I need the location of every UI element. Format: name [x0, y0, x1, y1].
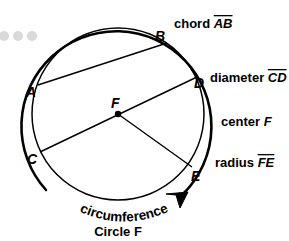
radius-segment-text: FE	[258, 155, 275, 170]
center-label-text: center	[221, 114, 264, 129]
annotation-diameter: diameter CD	[210, 70, 287, 85]
diameter-label-text: diameter	[210, 70, 268, 85]
circumference-label-text: circumference	[78, 200, 170, 224]
svg-text:center F: center F	[221, 114, 273, 129]
decorative-dot-icon	[0, 31, 9, 41]
circle-f-figure: A B C D E F chord AB diameter CD center …	[0, 0, 289, 241]
svg-text:radius FE: radius FE	[215, 155, 275, 170]
annotation-center: center F	[221, 114, 273, 129]
radius-label-text: radius	[215, 155, 258, 170]
circle-name-text: Circle F	[94, 224, 142, 239]
circumference-arrowhead-icon	[166, 192, 188, 208]
chord-segment-text: AB	[213, 16, 233, 31]
point-label-f: F	[111, 95, 120, 111]
radius-fe-line	[118, 114, 192, 167]
annotation-chord: chord AB	[174, 16, 233, 31]
decorative-dots-group	[0, 31, 37, 41]
decorative-dot-icon	[27, 31, 37, 41]
point-label-d: D	[194, 75, 204, 91]
decorative-dot-icon	[13, 31, 23, 41]
chord-ab-line	[38, 43, 167, 85]
annotation-circumference: circumference	[78, 200, 170, 224]
point-label-c: C	[27, 151, 38, 167]
point-label-a: A	[25, 84, 36, 100]
circle-name-caption: Circle F	[94, 224, 142, 239]
svg-text:chord AB: chord AB	[174, 16, 233, 31]
center-segment-text: F	[264, 114, 273, 129]
diameter-segment-text: CD	[268, 70, 287, 85]
annotation-radius: radius FE	[215, 155, 275, 170]
svg-text:diameter CD: diameter CD	[210, 70, 287, 85]
center-point-dot	[115, 111, 121, 117]
circle-diagram-svg: A B C D E F chord AB diameter CD center …	[0, 0, 289, 241]
point-label-b: B	[155, 28, 165, 44]
point-label-e: E	[191, 168, 201, 184]
chord-label-text: chord	[174, 16, 214, 31]
